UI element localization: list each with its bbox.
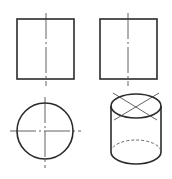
- cylinder-axis-line-1: [113, 93, 157, 120]
- front-view: [17, 13, 74, 86]
- front-view-outline: [17, 19, 74, 79]
- side-view: [100, 13, 157, 86]
- side-view-outline: [100, 19, 157, 79]
- cylinder-bottom-hidden-arc: [111, 140, 161, 152]
- top-view: [10, 97, 81, 168]
- cylinder-top-ellipse: [111, 94, 161, 118]
- technical-drawing: [0, 0, 172, 179]
- isometric-view: [111, 93, 161, 164]
- cylinder-bottom-visible-arc: [111, 152, 161, 164]
